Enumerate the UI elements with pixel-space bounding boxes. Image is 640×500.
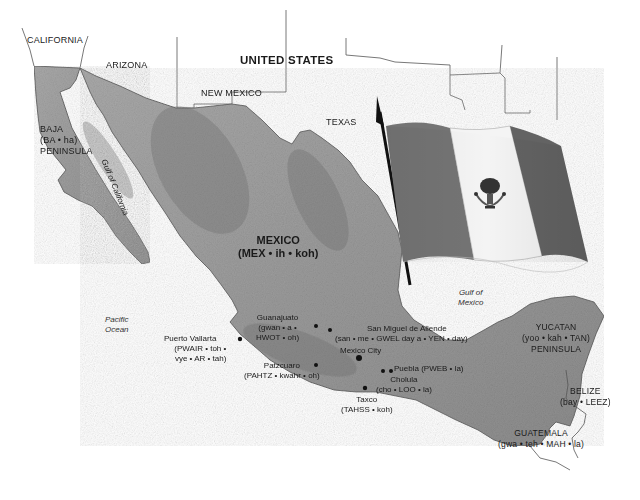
city-puebla: Puebla (PWEB • la)	[394, 364, 464, 374]
label-arizona: ARIZONA	[106, 60, 147, 70]
map-illustration	[0, 0, 640, 500]
city-name: Puerto Vallarta	[164, 334, 226, 344]
city-patzcuaro: Patzcuaro (PAHTZ • kwahr • oh)	[244, 361, 320, 381]
yucatan-line3: PENINSULA	[522, 344, 590, 355]
label-belize: BELIZE (bay • LEEZ)	[560, 386, 611, 408]
city-name: Cholula	[376, 375, 432, 385]
city-name: Patzcuaro	[244, 361, 320, 371]
pacific-line2: Ocean	[105, 325, 129, 335]
mexico-name: MEXICO	[238, 234, 318, 247]
label-california: CALIFORNIA	[27, 35, 83, 45]
belize-name: BELIZE	[560, 386, 611, 397]
label-mexico: MEXICO (MEX • ih • koh)	[238, 234, 318, 260]
city-name: San Miguel de Allende	[335, 324, 468, 334]
label-yucatan-peninsula: YUCATAN (yoo • kah • TAN) PENINSULA	[522, 322, 590, 355]
baja-line2: (BA • ha)	[40, 135, 93, 146]
city-pronunciation: (cho • LOO • la)	[376, 385, 432, 395]
guatemala-pronunciation: (gwa • teh • MAH • la)	[498, 439, 584, 450]
belize-pronunciation: (bay • LEEZ)	[560, 397, 611, 408]
gulf-mexico-line2: Mexico	[458, 298, 483, 308]
city-pronunciation: (PAHTZ • kwahr • oh)	[244, 371, 320, 381]
yucatan-line2: (yoo • kah • TAN)	[522, 333, 590, 344]
city-pronunciation: (PWAIR • toh •	[164, 344, 226, 354]
city-pronunciation: (san • me • GWEL day a • YEN • day)	[335, 334, 468, 344]
city-taxco: Taxco (TAHSS • koh)	[341, 395, 393, 415]
pacific-line1: Pacific	[105, 315, 129, 325]
label-united-states: UNITED STATES	[240, 55, 334, 65]
city-name: Puebla	[394, 364, 419, 373]
city-mexico-city: Mexico City	[340, 346, 381, 356]
label-pacific-ocean: Pacific Ocean	[105, 315, 129, 335]
city-san-miguel-de-allende: San Miguel de Allende (san • me • GWEL d…	[335, 324, 468, 344]
city-pronunciation: HWOT • oh)	[256, 333, 299, 343]
city-puerto-vallarta: Puerto Vallarta (PWAIR • toh • vye • AR …	[164, 334, 226, 364]
baja-line1: BAJA	[40, 124, 93, 135]
city-pronunciation: (gwan • a •	[256, 323, 299, 333]
mexico-flag	[386, 122, 588, 272]
yucatan-line1: YUCATAN	[522, 322, 590, 333]
city-name: Taxco	[341, 395, 393, 405]
mexico-pronunciation: (MEX • ih • koh)	[238, 247, 318, 260]
city-name: Guanajuato	[256, 313, 299, 323]
label-texas: TEXAS	[326, 117, 357, 127]
city-pronunciation: (TAHSS • koh)	[341, 405, 393, 415]
city-pronunciation: vye • AR • tah)	[164, 354, 226, 364]
gulf-mexico-line1: Gulf of	[458, 288, 483, 298]
label-new-mexico: NEW MEXICO	[201, 88, 262, 98]
city-cholula: Cholula (cho • LOO • la)	[376, 375, 432, 395]
city-guanajuato: Guanajuato (gwan • a • HWOT • oh)	[256, 313, 299, 343]
label-guatemala: GUATEMALA (gwa • teh • MAH • la)	[498, 428, 584, 450]
city-pronunciation: (PWEB • la)	[421, 364, 463, 373]
guatemala-name: GUATEMALA	[498, 428, 584, 439]
label-baja-peninsula: BAJA (BA • ha) PENINSULA	[40, 124, 93, 157]
baja-line3: PENINSULA	[40, 146, 93, 157]
label-gulf-of-mexico: Gulf of Mexico	[458, 288, 483, 308]
